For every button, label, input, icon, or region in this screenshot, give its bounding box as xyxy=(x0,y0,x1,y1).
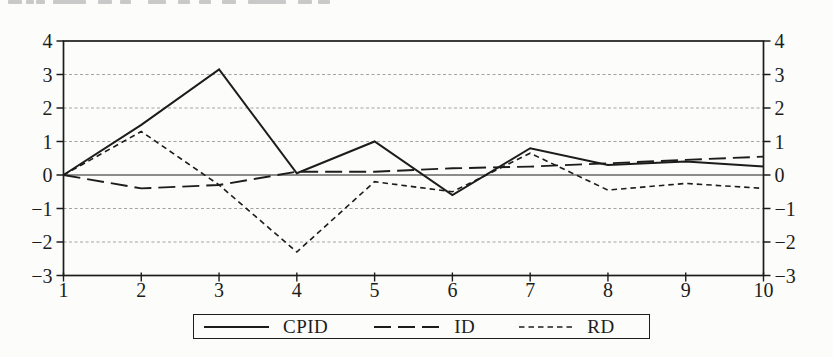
series-rd xyxy=(64,132,764,253)
legend-entry-id: ID xyxy=(374,315,475,338)
legend-entry-cpid: CPID xyxy=(204,315,328,338)
chart-page: 43210−1−2−343210−1−2−312345678910 CPID I… xyxy=(0,0,833,357)
y-right-tick-label: −1 xyxy=(775,198,796,220)
chart-legend: CPID ID RD xyxy=(193,314,650,339)
x-tick-label: 1 xyxy=(59,279,69,301)
x-tick-label: 7 xyxy=(525,279,535,301)
x-tick-label: 3 xyxy=(214,279,224,301)
y-left-tick-label: 3 xyxy=(43,64,53,86)
plot-frame xyxy=(64,41,764,276)
rd-line-sample-icon xyxy=(519,324,573,330)
y-left-tick-label: 1 xyxy=(43,131,53,153)
line-chart: 43210−1−2−343210−1−2−312345678910 xyxy=(0,0,833,310)
y-left-tick-label: 4 xyxy=(43,30,53,52)
x-tick-label: 6 xyxy=(447,279,457,301)
y-right-tick-label: −3 xyxy=(775,265,796,287)
y-axis-left: 43210−1−2−3 xyxy=(31,30,63,287)
y-right-tick-label: 4 xyxy=(775,30,785,52)
x-axis: 12345678910 xyxy=(59,273,774,301)
y-left-tick-label: −2 xyxy=(31,231,52,253)
y-right-tick-label: 3 xyxy=(775,64,785,86)
y-right-tick-label: −2 xyxy=(775,231,796,253)
y-left-tick-label: −3 xyxy=(31,265,52,287)
legend-label-rd: RD xyxy=(587,315,614,338)
x-tick-label: 10 xyxy=(754,279,774,301)
series-id xyxy=(64,157,764,189)
x-tick-label: 2 xyxy=(136,279,146,301)
x-tick-label: 4 xyxy=(292,279,302,301)
gridlines xyxy=(64,75,764,243)
id-line-sample-icon xyxy=(374,324,440,330)
x-tick-label: 9 xyxy=(681,279,691,301)
y-axis-right: 43210−1−2−3 xyxy=(764,30,796,287)
y-right-tick-label: 0 xyxy=(775,164,785,186)
y-right-tick-label: 2 xyxy=(775,97,785,119)
y-left-tick-label: 2 xyxy=(43,97,53,119)
legend-label-id: ID xyxy=(454,315,475,338)
y-right-tick-label: 1 xyxy=(775,131,785,153)
legend-entry-rd: RD xyxy=(519,315,614,338)
cpid-line-sample-icon xyxy=(204,324,269,330)
y-left-tick-label: −1 xyxy=(31,198,52,220)
y-left-tick-label: 0 xyxy=(43,164,53,186)
legend-label-cpid: CPID xyxy=(283,315,328,338)
x-tick-label: 8 xyxy=(603,279,613,301)
x-tick-label: 5 xyxy=(370,279,380,301)
series-cpid xyxy=(64,70,764,196)
